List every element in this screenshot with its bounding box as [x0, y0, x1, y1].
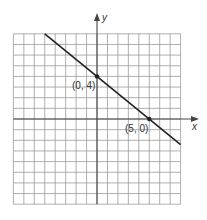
- point-label-5-0: (5, 0): [125, 123, 148, 134]
- data-point: [147, 117, 151, 121]
- point-label-0-4: (0, 4): [72, 80, 95, 91]
- coordinate-plane: x y (0, 4) (5, 0): [0, 0, 207, 220]
- line-series: [45, 34, 181, 145]
- y-axis-arrow-icon: [94, 13, 100, 21]
- line-path: [45, 34, 181, 145]
- y-axis-label: y: [101, 12, 108, 23]
- x-axis-label: x: [191, 121, 198, 132]
- data-point: [95, 74, 99, 78]
